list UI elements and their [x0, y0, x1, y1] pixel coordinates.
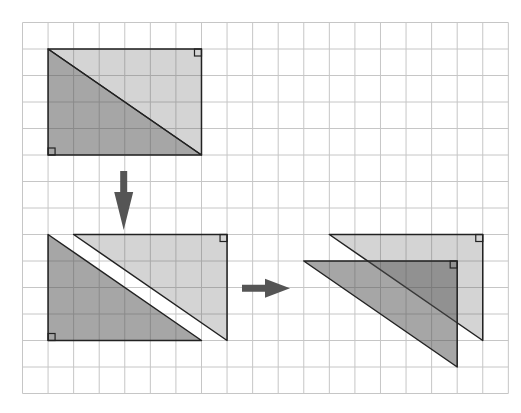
step-1-rectangle [48, 49, 201, 155]
diagram-svg: Rectangle split along its diagonal into … [0, 0, 521, 413]
down-arrow-icon [114, 171, 133, 230]
step-3-rearranged [304, 235, 483, 368]
right-arrow-icon [242, 279, 290, 298]
diagram-canvas: Rectangle split along its diagonal into … [0, 0, 521, 413]
